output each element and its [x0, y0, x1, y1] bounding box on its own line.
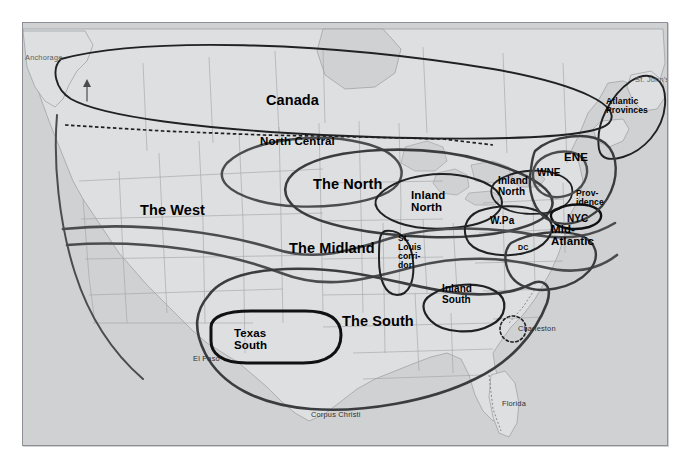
region-label-inland-north-east: Inland North [498, 176, 528, 197]
region-label-ene: ENE [564, 151, 588, 163]
city-label-corpus-christi: Corpus Christi [311, 410, 361, 419]
city-label-st-johns: St. John's [635, 75, 668, 84]
region-label-w-pa: W.Pa [490, 216, 514, 227]
region-label-canada: Canada [266, 93, 319, 108]
region-label-the-midland: The Midland [289, 241, 375, 256]
region-label-inland-south: Inland South [442, 284, 472, 305]
region-label-texas-south: Texas South [234, 327, 267, 351]
city-label-charleston: Charleston [518, 324, 556, 333]
region-label-the-south: The South [342, 314, 414, 329]
region-label-atlantic-provinces: Atlantic Provinces [606, 97, 648, 115]
region-label-north-central: North Central [260, 135, 335, 147]
city-label-el-paso: El Paso [193, 354, 220, 363]
region-label-mid-atlantic: Mid- Atlantic [551, 223, 594, 247]
region-label-providence: Prov- idence [576, 189, 604, 207]
region-label-st-louis-corridor: St. Louis corri- dor [398, 234, 421, 270]
city-label-anchorage: Anchorage [25, 53, 63, 62]
map-frame: Canada North Central The West The North … [22, 22, 668, 446]
region-label-the-north: The North [313, 177, 382, 192]
dialect-map-page: Canada North Central The West The North … [0, 0, 690, 468]
region-label-inland-north-west: Inland North [411, 189, 445, 213]
region-label-dc: DC [518, 244, 528, 251]
region-label-the-west: The West [140, 203, 205, 218]
region-label-wne: WNE [537, 168, 561, 179]
city-label-florida: Florida [502, 399, 526, 408]
